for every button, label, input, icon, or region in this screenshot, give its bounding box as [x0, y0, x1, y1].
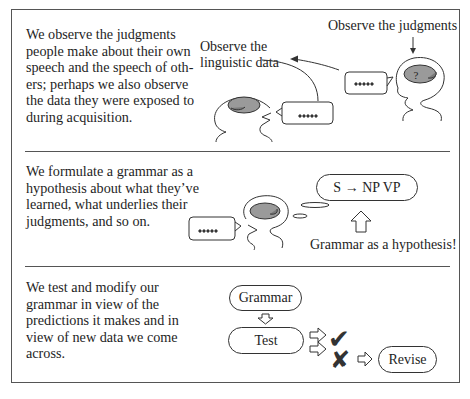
- hollow-arrow-right-icon: [358, 352, 372, 366]
- question-mark: ?: [414, 69, 419, 81]
- hollow-arrow-down-icon: [258, 314, 273, 324]
- diagram-illustrations: ?: [0, 0, 470, 399]
- thought-bubbles-icon: [293, 203, 329, 219]
- arrow-down-icon: [410, 37, 416, 54]
- speech-bubble-icon: [189, 217, 241, 240]
- hollow-arrow-up-icon: [351, 211, 371, 232]
- thinker-head-icon: [244, 196, 289, 250]
- curved-arrow-icon: [262, 56, 339, 102]
- speech-bubble-icon: [345, 72, 393, 94]
- speaker-head-icon: [215, 97, 272, 142]
- speech-bubble-icon: [276, 102, 333, 124]
- hollow-arrow-right-icon: [310, 328, 326, 342]
- hollow-arrow-right-icon: [310, 342, 326, 356]
- listener-head-icon: [396, 58, 444, 121]
